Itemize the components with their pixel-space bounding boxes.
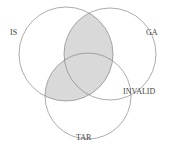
label-tar: TAR: [76, 133, 91, 142]
shaded-is-tar: [45, 53, 131, 139]
label-is: IS: [10, 28, 17, 37]
venn-diagram: [0, 0, 169, 149]
label-invalid: INVALID: [123, 87, 155, 96]
label-ga: GA: [146, 28, 158, 37]
